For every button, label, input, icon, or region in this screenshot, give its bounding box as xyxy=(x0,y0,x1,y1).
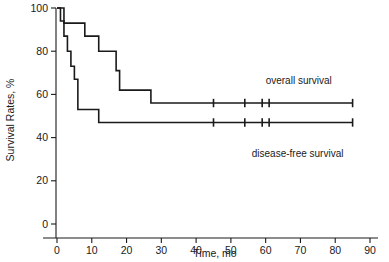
x-tick-label-80: 80 xyxy=(329,244,341,256)
y-tick-label-100: 100 xyxy=(30,2,48,14)
x-tick-label-70: 70 xyxy=(295,244,307,256)
km-plot-svg: 020406080100 0102030405060708090 overall… xyxy=(0,0,389,262)
series-label-overall-survival: overall survival xyxy=(266,75,332,86)
x-axis-title: Time, mo xyxy=(193,247,237,259)
x-tick-label-20: 20 xyxy=(121,244,133,256)
y-tick-label-40: 40 xyxy=(36,131,48,143)
y-tick-label-80: 80 xyxy=(36,45,48,57)
x-tick-label-60: 60 xyxy=(260,244,272,256)
y-tick-label-60: 60 xyxy=(36,88,48,100)
kaplan-meier-chart: 020406080100 0102030405060708090 overall… xyxy=(0,0,389,262)
y-tick-label-0: 0 xyxy=(42,218,48,230)
survival-curves xyxy=(57,8,353,122)
curve-disease-free-survival xyxy=(57,8,353,122)
y-tick-label-20: 20 xyxy=(36,174,48,186)
series-label-disease-free-survival: disease-free survival xyxy=(252,148,344,159)
series-labels: overall survivaldisease-free survival xyxy=(252,75,344,159)
y-axis-title: Survival Rates, % xyxy=(4,79,16,162)
x-tick-label-10: 10 xyxy=(86,244,98,256)
y-axis: 020406080100 xyxy=(30,2,56,238)
x-tick-label-30: 30 xyxy=(155,244,167,256)
curve-overall-survival xyxy=(57,8,353,103)
x-tick-label-0: 0 xyxy=(54,244,60,256)
x-tick-label-90: 90 xyxy=(364,244,376,256)
